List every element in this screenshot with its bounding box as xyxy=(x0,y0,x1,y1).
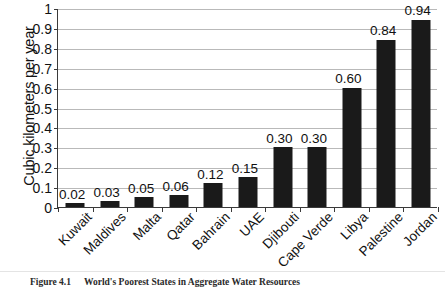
x-axis-category-label: Bahrain xyxy=(190,210,232,252)
figure-caption-text: World's Poorest States in Aggregate Wate… xyxy=(84,277,300,287)
x-axis-category-label: Jordan xyxy=(401,210,440,249)
x-axis-category-label: UAE xyxy=(238,210,267,239)
bar[interactable] xyxy=(308,147,327,207)
bar-value-label: 0.03 xyxy=(94,186,120,200)
bar-series: 0.020.030.050.060.120.150.300.300.600.84… xyxy=(58,9,437,207)
bar-slot[interactable]: 0.30 xyxy=(300,9,335,207)
bar-slot[interactable]: 0.30 xyxy=(265,9,300,207)
bar[interactable] xyxy=(342,88,361,207)
bar-slot[interactable]: 0.12 xyxy=(196,9,231,207)
bar-slot[interactable]: 0.02 xyxy=(58,9,93,207)
bar-value-label: 0.02 xyxy=(59,188,85,202)
bar-value-label: 0.30 xyxy=(266,132,292,146)
bar-slot[interactable]: 0.05 xyxy=(127,9,162,207)
bar[interactable] xyxy=(411,20,430,207)
figure-container: Cubic kilometers per year 00.10.20.30.40… xyxy=(0,0,445,290)
bar-slot[interactable]: 0.94 xyxy=(403,9,438,207)
x-axis-category-label: Malta xyxy=(130,210,163,243)
bar-value-label: 0.30 xyxy=(301,132,327,146)
bar-slot[interactable]: 0.06 xyxy=(162,9,197,207)
bar[interactable] xyxy=(66,203,85,207)
plot-area: 00.10.20.30.40.50.60.70.80.91 0.020.030.… xyxy=(57,9,437,208)
bar-slot[interactable]: 0.60 xyxy=(334,9,369,207)
bar[interactable] xyxy=(273,147,292,207)
bar[interactable] xyxy=(100,201,119,207)
figure-caption: Figure 4.1World's Poorest States in Aggr… xyxy=(30,277,440,287)
bar-slot[interactable]: 0.84 xyxy=(369,9,404,207)
bar[interactable] xyxy=(204,183,223,207)
bar[interactable] xyxy=(377,40,396,207)
bar-slot[interactable]: 0.03 xyxy=(93,9,128,207)
x-axis-labels: KuwaitMaldivesMaltaQatarBahrainUAEDjibou… xyxy=(57,210,437,272)
bar[interactable] xyxy=(135,197,154,207)
bar-value-label: 0.60 xyxy=(335,72,361,86)
figure-caption-number: Figure 4.1 xyxy=(30,277,71,287)
caption-divider xyxy=(0,271,445,272)
x-axis-tick-mark xyxy=(438,207,439,212)
bar[interactable] xyxy=(169,195,188,207)
bar-value-label: 0.12 xyxy=(197,168,223,182)
bar-value-label: 0.15 xyxy=(232,162,258,176)
bar-value-label: 0.84 xyxy=(370,24,396,38)
bar-value-label: 0.05 xyxy=(128,182,154,196)
bar-slot[interactable]: 0.15 xyxy=(231,9,266,207)
bar[interactable] xyxy=(238,177,257,207)
bar-value-label: 0.94 xyxy=(404,4,430,18)
bar-value-label: 0.06 xyxy=(163,180,189,194)
